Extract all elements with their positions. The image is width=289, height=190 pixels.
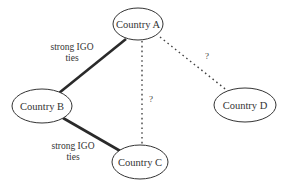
node-label: Country C [118,157,162,168]
node-label: Country B [20,101,64,112]
node-country-c: Country C [112,145,168,179]
edge-a-b-label-line1: strong IGO [50,42,93,52]
node-label: Country A [116,19,160,30]
edge-a-c-question-mark: ? [149,94,153,104]
node-label: Country D [223,100,268,111]
node-country-b: Country B [12,89,72,123]
node-country-d: Country D [214,88,276,122]
igo-ties-diagram: strong IGO ties strong IGO ties ? ? Coun… [0,0,289,190]
edge-a-b-label-line2: ties [65,53,78,63]
edge-a-d-unknown-tie [160,37,229,92]
edge-a-d-question-mark: ? [205,51,209,61]
node-country-a: Country A [113,8,163,40]
edge-b-c-label-line1: strong IGO [51,141,94,151]
edges [59,37,229,152]
edge-b-c-label-line2: ties [66,152,79,162]
edge-labels: strong IGO ties strong IGO ties ? ? [50,42,209,162]
